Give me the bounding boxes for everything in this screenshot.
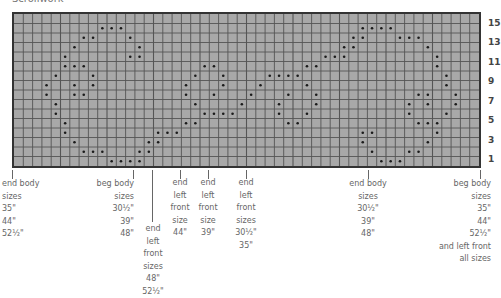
stitch-dot (427, 122, 430, 125)
stitch-dot (92, 150, 95, 153)
stitch-dot (389, 27, 392, 30)
stitch-dot (315, 103, 318, 106)
stitch-dot (296, 74, 299, 77)
stitch-dot (334, 55, 337, 58)
stitch-dot (82, 150, 85, 153)
stitch-dot (278, 103, 281, 106)
stitch-dot (138, 160, 141, 163)
stitch-dot (296, 122, 299, 125)
stitch-dot (222, 74, 225, 77)
marker-tick (152, 170, 153, 222)
stitch-dot (315, 65, 318, 68)
stitch-dot (454, 103, 457, 106)
stitch-dot (361, 141, 364, 144)
marker-label-4: end left front size 39" (196, 177, 220, 240)
stitch-dot (213, 65, 216, 68)
chart-title: Scrollwork (12, 0, 64, 4)
stitch-dot (287, 122, 290, 125)
stitch-dot (352, 36, 355, 39)
stitch-dot (92, 84, 95, 87)
stitch-dot (343, 55, 346, 58)
row-label: 11 (488, 57, 501, 67)
stitch-dot (417, 93, 420, 96)
stitch-dot (203, 112, 206, 115)
stitch-dot (110, 160, 113, 163)
marker-label-6: end body sizes 30½" 39" 48" (346, 178, 390, 241)
stitch-dot (436, 65, 439, 68)
stitch-dot (231, 112, 234, 115)
stitch-dot (287, 74, 290, 77)
row-label: 3 (488, 135, 494, 145)
row-label: 7 (488, 96, 494, 106)
stitch-dot (64, 55, 67, 58)
marker-label-7: beg body sizes 35" 44" 52½" and left fro… (439, 178, 491, 266)
stitch-dot (101, 150, 104, 153)
stitch-dot (408, 103, 411, 106)
stitch-dot (185, 93, 188, 96)
stitch-dot (64, 122, 67, 125)
stitch-dot (436, 122, 439, 125)
stitch-dot (454, 93, 457, 96)
stitch-dot (73, 141, 76, 144)
stitch-dot (148, 141, 151, 144)
stitch-dot (101, 27, 104, 30)
stitch-dot (129, 36, 132, 39)
stitch-dot (222, 84, 225, 87)
stitch-dot (361, 131, 364, 134)
stitch-dot (203, 65, 206, 68)
stitch-dot (436, 131, 439, 134)
stitch-dot (241, 103, 244, 106)
marker-label-1: beg body sizes 30½" 39" 48" (97, 178, 134, 241)
row-label: 13 (488, 37, 501, 47)
marker-label-0: end body sizes 35" 44" 52½" (2, 178, 39, 241)
stitch-dot (138, 55, 141, 58)
stitch-dot (399, 160, 402, 163)
stitch-dot (110, 27, 113, 30)
stitch-dot (306, 112, 309, 115)
stitch-dot (371, 131, 374, 134)
row-label: 15 (488, 18, 501, 28)
stitch-dot (306, 65, 309, 68)
stitch-dot (129, 55, 132, 58)
stitch-dot (361, 27, 364, 30)
stitch-dot (55, 103, 58, 106)
stitch-dot (157, 141, 160, 144)
stitch-dot (129, 160, 132, 163)
stitch-dot (82, 65, 85, 68)
stitch-dot (445, 112, 448, 115)
stitch-dot (120, 160, 123, 163)
stitch-dot (120, 27, 123, 30)
marker-label-2: end left front sizes 48" 52½" (141, 223, 165, 298)
stitch-dot (408, 112, 411, 115)
stitch-dot (213, 112, 216, 115)
stitch-dot (287, 93, 290, 96)
stitch-dot (399, 36, 402, 39)
stitch-dot (417, 150, 420, 153)
stitch-dot (380, 27, 383, 30)
stitch-dot (408, 36, 411, 39)
stitch-dot (427, 103, 430, 106)
stitch-dot (278, 112, 281, 115)
stitch-dot (371, 27, 374, 30)
stitch-dot (194, 74, 197, 77)
stitch-dot (408, 150, 411, 153)
marker-label-5: end left front sizes 30½" 35" (232, 177, 260, 252)
stitch-dot (361, 36, 364, 39)
stitch-dot (194, 122, 197, 125)
stitch-dot (185, 84, 188, 87)
stitch-dot (166, 131, 169, 134)
stitch-dot (55, 112, 58, 115)
stitch-dot (73, 93, 76, 96)
stitch-dot (138, 150, 141, 153)
stitch-dot (371, 150, 374, 153)
row-label: 1 (488, 154, 494, 164)
stitch-dot (55, 74, 58, 77)
stitch-dot (45, 84, 48, 87)
stitch-dot (222, 112, 225, 115)
stitch-dot (73, 46, 76, 49)
stitch-dot (213, 93, 216, 96)
stitch-dot (389, 160, 392, 163)
stitch-dot (250, 93, 253, 96)
stitch-dot (259, 84, 262, 87)
stitch-dot (427, 141, 430, 144)
